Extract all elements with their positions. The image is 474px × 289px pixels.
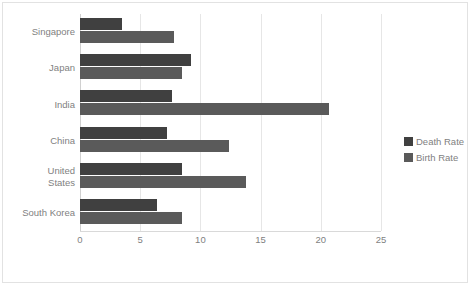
bar-birth-rate[interactable] (80, 67, 182, 79)
legend-item[interactable]: Death Rate (404, 134, 474, 148)
bar-death-rate[interactable] (80, 127, 167, 139)
bar-death-rate[interactable] (80, 163, 182, 175)
x-axis-tick-label: 0 (77, 234, 82, 245)
chart-legend: Death RateBirth Rate (404, 134, 474, 166)
y-axis-label: India (3, 86, 75, 122)
chart-frame: SingaporeJapanIndiaChinaUnitedStatesSout… (2, 2, 468, 283)
bar-birth-rate[interactable] (80, 212, 182, 224)
bar-group (80, 195, 381, 231)
bar-death-rate[interactable] (80, 54, 191, 66)
x-axis-tick-labels: 0510152025 (80, 234, 381, 250)
bar-group (80, 123, 381, 159)
y-axis-category-labels: SingaporeJapanIndiaChinaUnitedStatesSout… (3, 14, 75, 231)
legend-label: Birth Rate (416, 152, 458, 163)
x-axis-tick-label: 5 (138, 234, 143, 245)
legend-swatch-icon (404, 137, 413, 146)
bar-birth-rate[interactable] (80, 176, 246, 188)
x-axis-tick-label: 10 (195, 234, 206, 245)
plot-area (80, 14, 381, 231)
bar-death-rate[interactable] (80, 90, 172, 102)
y-axis-label: Japan (3, 50, 75, 86)
x-axis-tick-label: 25 (376, 234, 387, 245)
x-axis-line (80, 231, 381, 232)
y-axis-label: UnitedStates (3, 159, 75, 195)
x-axis-tick-label: 15 (255, 234, 266, 245)
legend-swatch-icon (404, 153, 413, 162)
gridline-25 (381, 14, 382, 231)
bar-birth-rate[interactable] (80, 31, 174, 43)
legend-label: Death Rate (416, 136, 464, 147)
bar-group (80, 86, 381, 122)
chart-screenshot: SingaporeJapanIndiaChinaUnitedStatesSout… (0, 0, 474, 289)
bar-death-rate[interactable] (80, 18, 122, 30)
bar-group (80, 159, 381, 195)
bar-death-rate[interactable] (80, 199, 157, 211)
y-axis-label: South Korea (3, 195, 75, 231)
bar-group (80, 14, 381, 50)
legend-item[interactable]: Birth Rate (404, 150, 474, 164)
y-axis-label: China (3, 123, 75, 159)
bar-birth-rate[interactable] (80, 103, 329, 115)
x-axis-tick-label: 20 (316, 234, 327, 245)
y-axis-label: Singapore (3, 14, 75, 50)
bar-group (80, 50, 381, 86)
bar-birth-rate[interactable] (80, 140, 229, 152)
